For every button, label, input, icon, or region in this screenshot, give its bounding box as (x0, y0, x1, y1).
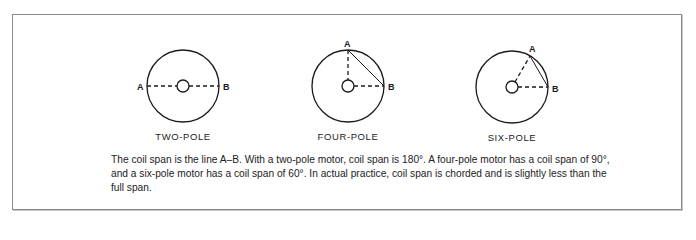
two-pole-point-a-label: A (137, 82, 144, 92)
four-pole-title: FOUR-POLE (318, 131, 379, 142)
radius-to-a (515, 56, 530, 82)
coil-span-chord (530, 56, 548, 87)
figure-caption: The coil span is the line A–B. With a tw… (111, 153, 611, 195)
four-pole-panel (312, 50, 384, 122)
two-pole-title: TWO-POLE (155, 131, 210, 142)
six-pole-point-a-label: A (529, 44, 536, 54)
six-pole-panel (476, 51, 548, 123)
six-pole-title: SIX-POLE (488, 132, 537, 143)
two-pole-panel (147, 50, 219, 122)
two-pole-point-b-label: B (223, 82, 230, 92)
four-pole-point-a-label: A (344, 39, 351, 49)
rotor-hub (342, 80, 354, 92)
rotor-hub (506, 81, 518, 93)
six-pole-point-b-label: B (552, 84, 559, 94)
four-pole-point-b-label: B (388, 82, 395, 92)
rotor-hub (177, 80, 189, 92)
